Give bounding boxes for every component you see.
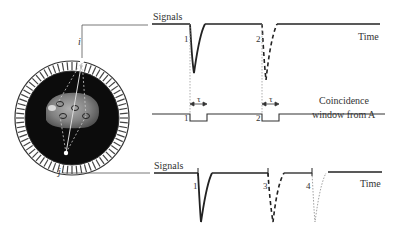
coincidence-label-line1: Coincidence xyxy=(319,96,369,106)
detector-i-marker xyxy=(80,59,84,63)
bottom-tick-marks xyxy=(198,168,312,176)
detector-i-label: i xyxy=(78,37,81,47)
bottom-pulse-label-1: 1 xyxy=(193,181,198,191)
bottom-pulse-label-3: 3 xyxy=(263,181,268,191)
bottom-signals-title: Signals xyxy=(154,161,183,171)
tau-arrows xyxy=(190,102,279,106)
top-signals-title: Signals xyxy=(153,12,182,22)
detector-j-label: j xyxy=(58,167,61,177)
patient-cross-section xyxy=(46,93,99,128)
bottom-time-label: Time xyxy=(360,179,381,189)
detector-j-marker xyxy=(64,151,68,155)
tau-symbol-1: τ xyxy=(197,94,201,104)
tau-symbol-2: τ xyxy=(269,94,273,104)
coincidence-label-line2: window from A xyxy=(312,110,375,120)
top-time-label: Time xyxy=(358,32,379,42)
bottom-signal-trace xyxy=(154,172,382,222)
window-label-1: 1 xyxy=(184,113,189,123)
top-pulse-label-2: 2 xyxy=(256,34,261,44)
bottom-pulse-label-4: 4 xyxy=(306,181,311,191)
top-signal-trace xyxy=(152,24,380,80)
window-label-2: 2 xyxy=(256,113,261,123)
top-pulse-label-1: 1 xyxy=(184,34,189,44)
connector-i xyxy=(82,25,148,58)
